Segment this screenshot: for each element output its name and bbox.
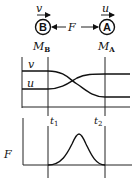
t1-label: t1 [50, 115, 59, 128]
force-label: F [67, 21, 76, 34]
mass-b-label: MB [32, 40, 50, 54]
mass-a-label: MA [97, 40, 115, 54]
ball-b-letter: B [39, 21, 47, 33]
u-curve [22, 74, 130, 89]
ball-a: A [100, 20, 115, 35]
force-pulse-curve [48, 134, 105, 165]
force-graph: F [3, 118, 132, 178]
velocity-v-label: v [36, 2, 43, 15]
velocity-u-label: u [102, 2, 109, 15]
force-axis-label: F [3, 148, 12, 161]
u-curve-label: u [27, 77, 34, 90]
v-curve-label: v [28, 58, 35, 71]
velocity-graph: v u t1 t2 [22, 57, 130, 128]
ball-b: B [36, 20, 51, 35]
t2-label: t2 [94, 115, 103, 128]
ball-a-letter: A [103, 21, 111, 33]
collision-diagram: v u B A F MB MA v u t1 t2 F [0, 0, 140, 188]
v-curve [22, 71, 130, 97]
